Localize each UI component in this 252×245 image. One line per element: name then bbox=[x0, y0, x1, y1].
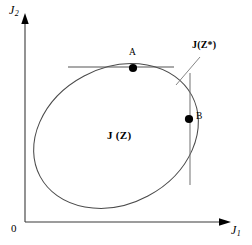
y-axis-arrowhead-icon bbox=[21, 13, 28, 24]
x-axis-label-subscript: 1 bbox=[237, 229, 241, 238]
x-axis-label: J1 bbox=[231, 224, 241, 238]
point-label-a: A bbox=[129, 48, 136, 58]
y-axis-label: J2 bbox=[9, 4, 19, 18]
callout-label: J(Z*) bbox=[192, 40, 216, 50]
y-axis-label-subscript: 2 bbox=[15, 9, 19, 18]
x-axis bbox=[25, 218, 231, 225]
diagram-canvas bbox=[0, 0, 252, 245]
objective-space-diagram: J2 J1 0 A B J (Z) J(Z*) bbox=[0, 0, 252, 245]
callout-leader-line bbox=[176, 57, 200, 85]
point-label-b: B bbox=[196, 112, 202, 122]
point-marker-a bbox=[129, 64, 137, 72]
x-axis-label-symbol: J bbox=[231, 223, 236, 237]
y-axis bbox=[21, 13, 28, 222]
y-axis-label-symbol: J bbox=[9, 3, 14, 17]
origin-label: 0 bbox=[11, 223, 17, 234]
region-label: J (Z) bbox=[107, 130, 131, 141]
x-axis-arrowhead-icon bbox=[219, 218, 231, 225]
point-marker-b bbox=[185, 115, 193, 123]
